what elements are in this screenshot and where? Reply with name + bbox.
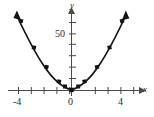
- data-point: [57, 79, 62, 84]
- y-tick-label-50: 50: [55, 29, 65, 39]
- data-point: [19, 19, 24, 24]
- data-point: [82, 79, 87, 84]
- data-point: [63, 85, 67, 89]
- curve-right-arrowhead-icon: [122, 11, 130, 21]
- y-axis-label: y: [70, 1, 74, 10]
- data-point: [95, 65, 100, 70]
- parabola-plot: [0, 0, 154, 117]
- data-point: [76, 85, 80, 89]
- x-tick-label-minus4: -4: [13, 97, 21, 107]
- graph-figure: -4 0 4 50 x y: [0, 0, 154, 117]
- curve-left-arrowhead-icon: [13, 11, 21, 21]
- y-axis: [68, 7, 76, 96]
- data-point: [107, 45, 112, 50]
- data-point: [120, 19, 125, 24]
- data-point: [44, 65, 49, 70]
- data-point: [32, 45, 37, 50]
- x-tick-label-zero: 0: [68, 97, 73, 107]
- x-tick-label-4: 4: [118, 97, 123, 107]
- data-point-origin: [69, 88, 73, 92]
- x-axis-label: x: [143, 85, 147, 94]
